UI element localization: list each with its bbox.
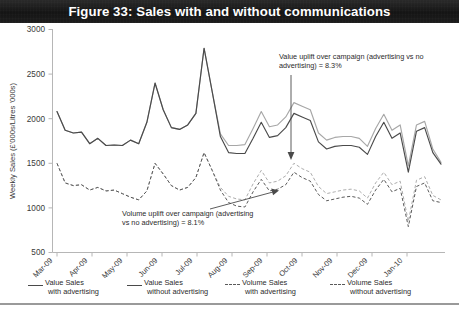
legend-item-value-sales-with-advertising[interactable]: Value Sales with advertising xyxy=(28,278,99,297)
x-tick-label: Dec-09 xyxy=(346,256,370,278)
figure-title: Figure 33: Sales with and without commun… xyxy=(0,0,459,23)
y-tick-label: 500 xyxy=(31,248,45,257)
y-tick-label: 1500 xyxy=(27,159,46,168)
x-tick-label: Sep-09 xyxy=(241,256,265,278)
volume-uplift-line1: Volume uplift over campaign (advertising xyxy=(122,209,253,218)
legend-label-line1: Value Sales xyxy=(45,278,99,287)
y-tick-label: 2500 xyxy=(27,70,46,79)
value-uplift-arrow-head xyxy=(288,152,295,160)
value-uplift-line2: advertising) = 8.3% xyxy=(279,61,342,70)
legend-label-line2: with advertising xyxy=(242,287,296,296)
series-group xyxy=(57,48,441,226)
x-tick-label: Oct-09 xyxy=(277,256,299,278)
figure-title-bar: Figure 33: Sales with and without commun… xyxy=(0,0,459,23)
legend-swatch-solid-light-icon xyxy=(127,278,144,290)
x-tick-label: May-09 xyxy=(100,256,124,278)
legend-label-line2: without advertising xyxy=(347,287,411,296)
legend-swatch-dashed-light-icon xyxy=(330,278,347,290)
y-axis-title: Weekly Sales (£'000s/Litres '000s) xyxy=(8,83,17,199)
x-axis-ticks xyxy=(57,253,407,257)
value-uplift-line1: Value uplift over campaign (advertising … xyxy=(279,52,424,61)
legend-item-volume-sales-without-advertising[interactable]: Volume Sales without advertising xyxy=(330,278,411,297)
legend-label-line1: Value Sales xyxy=(144,278,208,287)
x-tick-label: Apr-09 xyxy=(67,256,89,278)
y-tick-label: 3000 xyxy=(27,25,46,34)
x-tick-label: Jul-09 xyxy=(173,256,194,277)
x-tick-label: Mar-09 xyxy=(31,256,54,278)
x-tick-label: Jan-10 xyxy=(382,256,405,278)
legend-label-line1: Volume Sales xyxy=(242,278,296,287)
x-axis-tick-labels: Mar-09 Apr-09 May-09 Jun-09 Jul-09 Aug-0… xyxy=(31,256,404,278)
x-tick-label: Jun-09 xyxy=(137,256,160,278)
x-tick-label: Aug-09 xyxy=(206,256,230,278)
chart-legend: Value Sales with advertising Value Sales… xyxy=(0,276,459,302)
chart-plot-area: 3000 2500 2000 1500 1000 500 Weekly Sale… xyxy=(0,23,459,278)
legend-swatch-solid-dark-icon xyxy=(28,278,45,290)
y-tick-label: 2000 xyxy=(27,115,46,124)
volume-uplift-arrow-shaft xyxy=(210,192,273,209)
legend-item-value-sales-without-advertising[interactable]: Value Sales without advertising xyxy=(127,278,208,297)
x-tick-label: Nov-09 xyxy=(311,256,335,278)
legend-swatch-dashed-dark-icon xyxy=(225,278,242,290)
figure-container: Figure 33: Sales with and without commun… xyxy=(0,0,459,315)
volume-uplift-annotation: Volume uplift over campaign (advertising… xyxy=(122,189,279,227)
legend-item-volume-sales-with-advertising[interactable]: Volume Sales with advertising xyxy=(225,278,296,297)
y-axis-tick-labels: 3000 2500 2000 1500 1000 500 xyxy=(27,25,46,257)
series-value-sales-with-advertising xyxy=(57,48,441,172)
legend-label-line2: without advertising xyxy=(144,287,208,296)
legend-label-line1: Volume Sales xyxy=(347,278,411,287)
figure-bottom-rule xyxy=(0,303,459,305)
series-value-sales-without-advertising xyxy=(57,48,441,166)
legend-label-line2: with advertising xyxy=(45,287,99,296)
volume-uplift-line2: vs no advertising) = 8.1% xyxy=(122,218,205,227)
y-axis-ticks xyxy=(49,30,53,253)
line-chart: 3000 2500 2000 1500 1000 500 Weekly Sale… xyxy=(0,23,459,278)
y-tick-label: 1000 xyxy=(27,204,46,213)
